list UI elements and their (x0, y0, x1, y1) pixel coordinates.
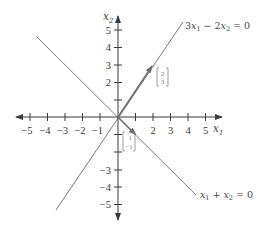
svg-text:3: 3 (161, 78, 164, 85)
y-tick-label: 5 (106, 25, 111, 36)
y-tick-label: −5 (100, 199, 111, 210)
x-tick-label: −5 (21, 125, 32, 136)
y-tick-label: −4 (100, 182, 112, 193)
line-x1-plus-x2 (37, 37, 196, 195)
vector-1-neg1-arrow (118, 117, 136, 135)
x-tick-label: −2 (74, 125, 85, 136)
x-axis-label: x1 (213, 122, 223, 137)
equation-x1-plus-x2: x1 + x2 = 0 (200, 189, 253, 202)
coordinate-plane-diagram: −5 −4 −3 −2 −1 2 3 4 5 x1 5 (0, 0, 256, 239)
y-tick-label: 3 (106, 60, 111, 71)
y-tick-label: 2 (106, 77, 111, 88)
vector-1-neg1-label: 1 −1 (123, 132, 135, 151)
x-tick-label: −4 (39, 125, 51, 136)
x-tick-label: 2 (150, 125, 155, 136)
vector-2-3-label: 2 3 (157, 68, 168, 86)
vector-2-3-arrow (118, 66, 152, 117)
x-tick-label: 4 (185, 125, 191, 136)
equation-3x1-minus-2x2: 3x1 − 2x2 = 0 (185, 20, 250, 33)
svg-text:2: 2 (161, 70, 164, 77)
x-tick-label: −1 (92, 125, 103, 136)
x-tick-label: 3 (168, 125, 173, 136)
y-tick-label: 4 (106, 42, 112, 53)
x-tick-label: −3 (57, 125, 68, 136)
x-axis: −5 −4 −3 −2 −1 2 3 4 5 x1 (16, 113, 223, 137)
svg-text:−1: −1 (126, 143, 133, 150)
x-tick-label: 5 (203, 125, 208, 136)
svg-text:1: 1 (128, 134, 131, 141)
y-tick-label: −3 (100, 165, 111, 176)
y-axis-label: x2 (103, 10, 114, 25)
